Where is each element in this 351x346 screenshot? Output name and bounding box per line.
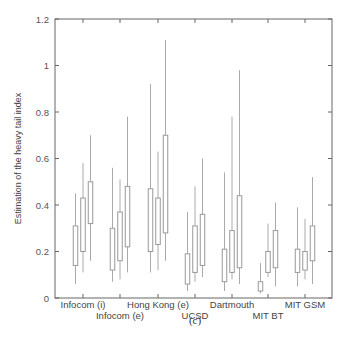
y-tick-label: 0.4 [36,200,49,211]
box [222,249,227,282]
box [200,214,205,265]
figure-caption: (c) [189,314,202,327]
category-label: MIT GSM [285,299,326,310]
box [125,186,130,246]
heavy-tail-boxplot-chart: 00.20.40.60.811.2 Infocom (i)Infocom (e)… [0,0,351,346]
box [148,189,153,252]
y-tick-label: 1 [44,60,49,71]
box [258,282,263,291]
category-label: MIT BT [253,310,284,321]
box-group [295,177,315,286]
box-group [222,70,242,291]
box [303,252,308,271]
box [88,182,93,224]
box-group [185,159,205,292]
box-group [258,203,278,294]
category-label: Dartmouth [210,299,254,310]
y-axis-title: Estimation of the heavy tail index [13,92,23,224]
box [237,196,242,268]
y-tick-label: 0 [44,293,49,304]
box-group [148,40,168,272]
y-tick-label: 0.2 [36,246,49,257]
category-label: Hong Kong (e) [127,299,189,310]
box [295,249,300,272]
box-groups [73,40,315,293]
y-tick-label: 0.8 [36,107,49,118]
y-axis: 00.20.40.60.811.2 [36,14,332,304]
y-tick-label: 0.6 [36,153,49,164]
box [156,198,161,245]
category-label: Infocom (e) [96,310,144,321]
box [163,135,168,233]
box [273,231,278,268]
box [81,198,86,251]
box [193,226,198,272]
box-group [73,135,93,284]
box-group [110,117,130,282]
box [230,231,235,273]
box [266,252,271,273]
category-label: Infocom (i) [61,299,106,310]
box [185,254,190,284]
box [310,226,315,261]
box [118,212,123,261]
box [73,226,78,266]
y-tick-label: 1.2 [36,14,49,25]
box [110,228,115,270]
x-axis: Infocom (i)Infocom (e)Hong Kong (e)UCSDD… [61,19,326,321]
